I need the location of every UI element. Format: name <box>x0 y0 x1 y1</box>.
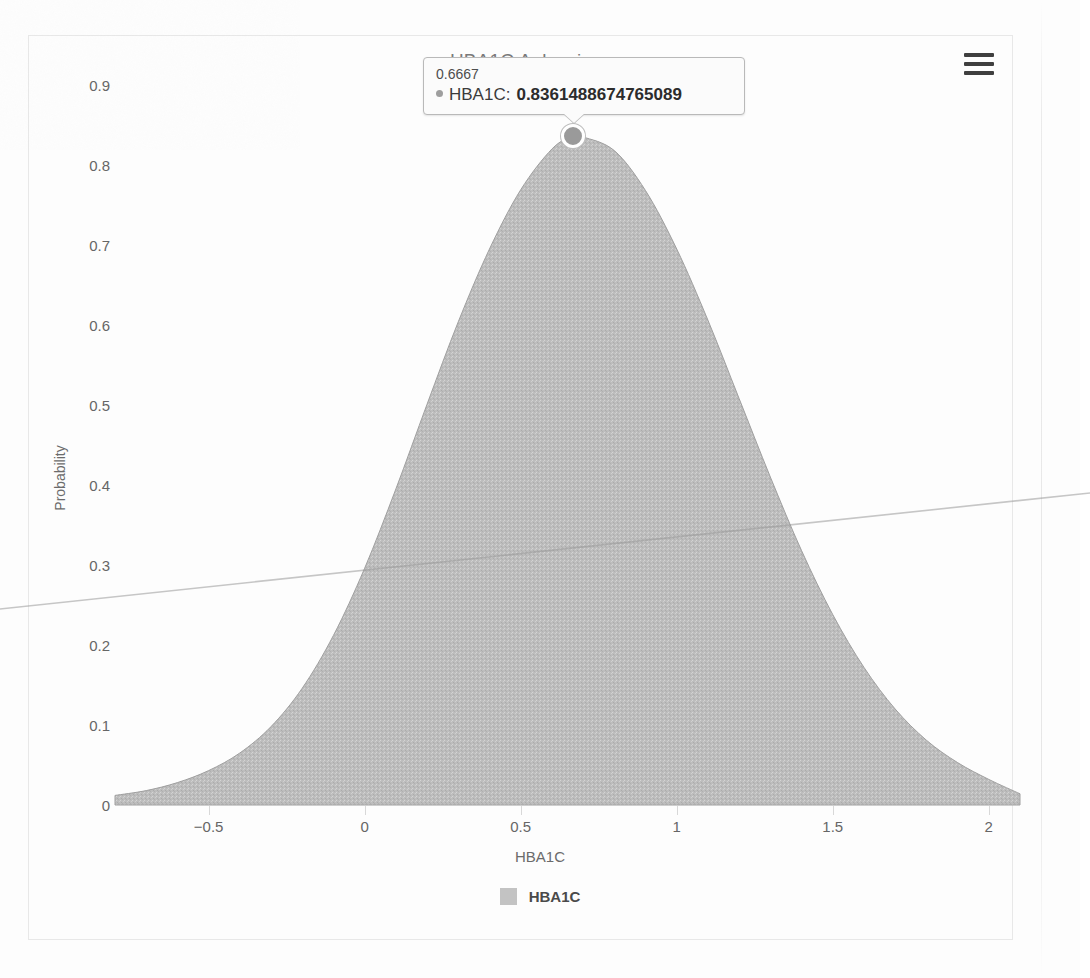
tooltip-x-value: 0.6667 <box>436 66 732 82</box>
x-axis-tick-label: 1.5 <box>793 818 873 835</box>
tooltip-series-dot-icon <box>436 90 443 97</box>
x-axis-tick-label: 1 <box>637 818 717 835</box>
chart-tooltip: 0.6667 HBA1C: 0.8361488674765089 <box>423 57 745 115</box>
hovered-point-marker[interactable] <box>561 124 585 148</box>
tooltip-series-value: 0.8361488674765089 <box>516 85 681 105</box>
tooltip-pointer <box>563 113 585 123</box>
tooltip-series-name: HBA1C: <box>449 85 510 105</box>
x-axis-tick-mark <box>989 806 990 815</box>
chart-legend[interactable]: HBA1C <box>0 888 1080 905</box>
legend-swatch-hba1c <box>500 888 517 905</box>
x-axis-tick-mark <box>677 806 678 815</box>
legend-label-hba1c[interactable]: HBA1C <box>529 888 581 905</box>
x-axis-tick-label: 0.5 <box>481 818 561 835</box>
x-axis-tick-mark <box>833 806 834 815</box>
x-axis-tick-mark <box>521 806 522 815</box>
x-axis-title: HBA1C <box>0 848 1080 865</box>
x-axis-tick-label: 0 <box>325 818 405 835</box>
tooltip-series-row: HBA1C: 0.8361488674765089 <box>436 85 732 105</box>
x-axis-tick-mark <box>365 806 366 815</box>
x-axis-tick-mark <box>209 806 210 815</box>
x-axis-tick-label: 2 <box>949 818 1029 835</box>
x-axis-tick-label: −0.5 <box>169 818 249 835</box>
